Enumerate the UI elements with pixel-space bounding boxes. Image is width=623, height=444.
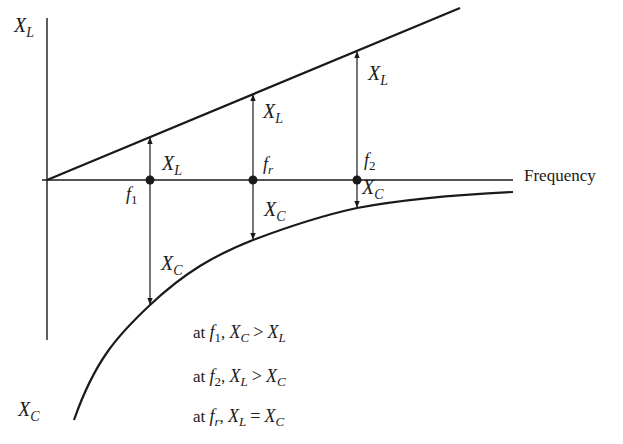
f1-xl-label: XL [162,152,182,179]
label-f2: f2 [364,150,376,174]
xc-curve [74,192,513,420]
f1-xc-label: XC [161,252,183,279]
label-fr: fr [263,154,273,178]
note-f1: at f1, XC>XL [193,322,286,346]
fr-xc-label: XC [264,198,286,225]
note-fr: at fr, XL=XC [193,406,284,430]
y-axis-bottom-label: XC [18,398,40,425]
y-axis-top-label: XL [14,14,34,41]
f2-xc-label: XC [362,176,384,203]
point-f1 [146,176,155,185]
note-f2: at f2, XL>XC [193,366,286,390]
reactance-diagram [0,0,623,444]
f2-xl-label: XL [368,62,388,89]
point-fr [249,176,258,185]
x-axis-label: Frequency [524,166,596,186]
fr-xl-label: XL [263,100,283,127]
point-f2 [353,176,362,185]
label-f1: f1 [126,184,138,208]
